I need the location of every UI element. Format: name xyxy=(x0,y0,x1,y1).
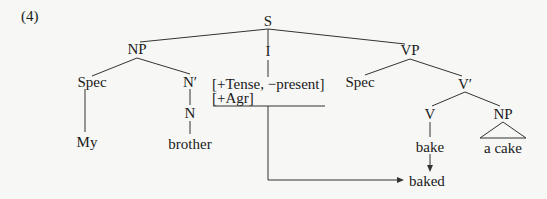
edge-vbar-np xyxy=(465,92,500,106)
node-i: I xyxy=(266,44,271,59)
bake-arrowhead xyxy=(427,165,433,172)
word-bake: bake xyxy=(416,140,444,155)
np-triangle xyxy=(480,122,526,138)
word-baked: baked xyxy=(409,174,445,189)
edge-vbar-v xyxy=(432,92,465,106)
edge-np-nbar xyxy=(137,58,190,74)
node-np-object: NP xyxy=(493,107,512,122)
movement-path xyxy=(268,106,400,180)
word-my: My xyxy=(77,135,98,150)
node-spec-np: Spec xyxy=(77,75,106,90)
node-spec-vp: Spec xyxy=(345,75,374,90)
edge-s-np xyxy=(140,29,268,42)
edge-vp-spec xyxy=(365,59,410,75)
node-n: N xyxy=(185,106,196,121)
node-v: V xyxy=(425,107,436,122)
node-v-bar: V′ xyxy=(458,77,472,92)
edge-vp-vbar xyxy=(410,59,462,76)
tree-branches xyxy=(0,0,547,199)
word-brother: brother xyxy=(168,137,211,152)
node-n-bar: N′ xyxy=(183,75,197,90)
edge-s-vp xyxy=(268,29,405,44)
node-s: S xyxy=(264,14,272,29)
features-agr: [+Agr] xyxy=(212,91,254,106)
node-np-subject: NP xyxy=(127,42,146,57)
node-vp: VP xyxy=(400,43,419,58)
word-a-cake: a cake xyxy=(484,141,522,156)
example-number: (4) xyxy=(21,9,39,24)
movement-arrowhead xyxy=(397,177,404,183)
